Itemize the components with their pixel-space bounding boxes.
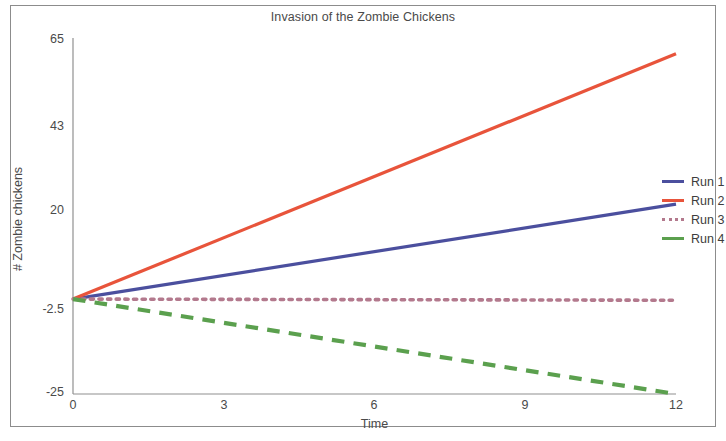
legend-item-run-1[interactable]: Run 1 bbox=[660, 172, 726, 191]
legend-label-run-3: Run 3 bbox=[686, 213, 724, 227]
legend-label-run-1: Run 1 bbox=[686, 175, 724, 189]
legend-label-run-4: Run 4 bbox=[686, 232, 724, 246]
series-line-run-2 bbox=[73, 54, 676, 299]
legend-swatch-run-2 bbox=[660, 195, 686, 207]
series-line-run-1 bbox=[73, 204, 676, 299]
legend-swatch-run-3 bbox=[660, 214, 686, 226]
legend-label-run-2: Run 2 bbox=[686, 194, 724, 208]
legend-item-run-3[interactable]: Run 3 bbox=[660, 210, 726, 229]
series-line-run-4 bbox=[73, 299, 676, 394]
plot-area bbox=[0, 0, 726, 441]
legend-item-run-4[interactable]: Run 4 bbox=[660, 229, 726, 248]
legend-item-run-2[interactable]: Run 2 bbox=[660, 191, 726, 210]
series-line-run-3 bbox=[73, 299, 676, 300]
chart-legend: Run 1 Run 2 Run 3 Run 4 bbox=[660, 172, 726, 248]
chart-figure: Invasion of the Zombie Chickens # Zombie… bbox=[0, 0, 726, 441]
series-group bbox=[73, 54, 676, 394]
legend-swatch-run-1 bbox=[660, 176, 686, 188]
legend-swatch-run-4 bbox=[660, 233, 686, 245]
